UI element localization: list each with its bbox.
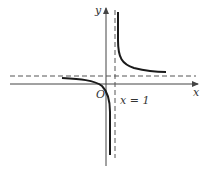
vertical-asymptote-label: x = 1 bbox=[120, 94, 149, 107]
y-axis-label: y bbox=[94, 4, 102, 17]
upper-branch-curve bbox=[118, 12, 166, 72]
origin-label: O bbox=[96, 88, 105, 101]
function-graph: y x O x = 1 bbox=[0, 0, 206, 176]
x-axis-label: x bbox=[193, 86, 200, 99]
